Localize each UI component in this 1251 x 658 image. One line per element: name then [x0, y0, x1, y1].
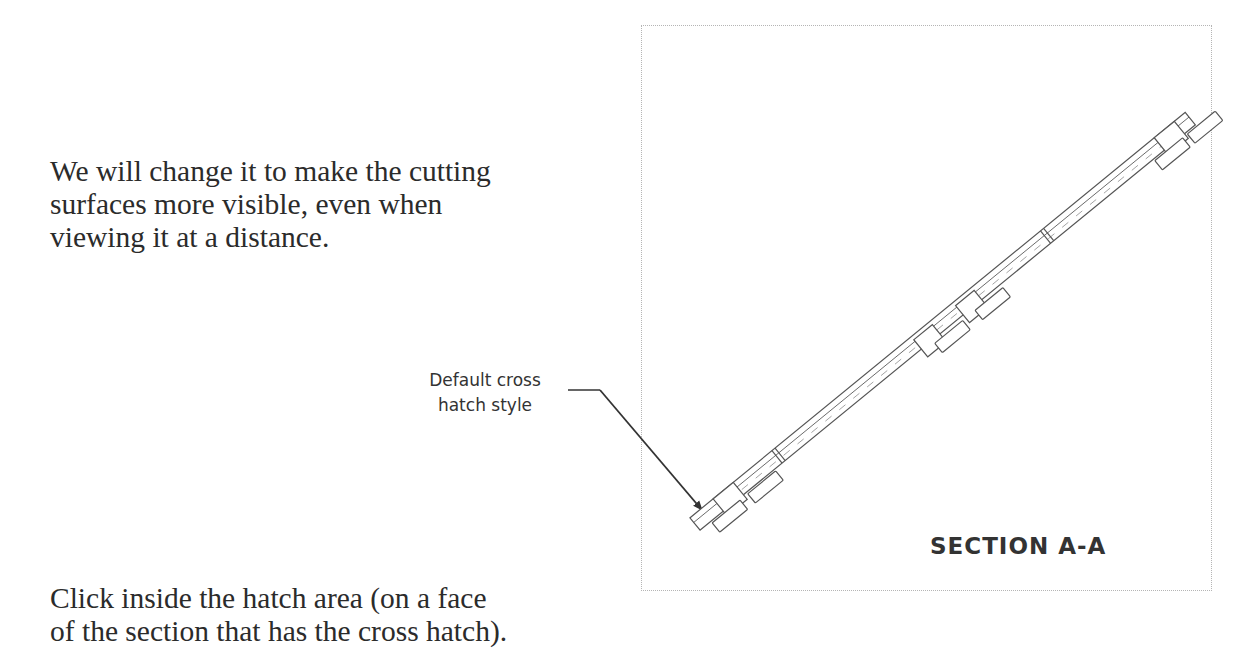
- section-part[interactable]: [690, 97, 1224, 542]
- paragraph-line: Click inside the hatch area (on a face: [50, 582, 507, 615]
- section-view-drawing: [0, 0, 1251, 658]
- instruction-paragraph-bottom: Click inside the hatch area (on a face o…: [50, 582, 507, 648]
- section-label: SECTION A-A: [930, 533, 1106, 559]
- leader-arrow: [568, 390, 702, 510]
- paragraph-line: of the section that has the cross hatch)…: [50, 615, 507, 648]
